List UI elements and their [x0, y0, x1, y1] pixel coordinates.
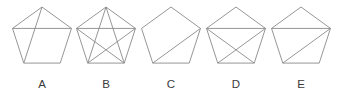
- pentagon-label-e: E: [297, 78, 305, 90]
- pentagon-group-c: C: [142, 7, 201, 90]
- pentagon-group-a: A: [13, 7, 72, 90]
- pentagon-group-e: E: [272, 7, 331, 90]
- pentagon-figure-canvas: ABCDE: [0, 0, 347, 93]
- pentagon-figure: ABCDE: [0, 0, 347, 93]
- pentagon-label-a: A: [38, 78, 46, 90]
- pentagon-group-d: D: [207, 7, 266, 90]
- pentagon-label-b: B: [102, 78, 110, 90]
- pentagon-label-d: D: [232, 78, 240, 90]
- pentagon-label-c: C: [167, 78, 175, 90]
- pentagon-group-b: B: [77, 7, 136, 90]
- pentagon-outline-a: [13, 7, 72, 63]
